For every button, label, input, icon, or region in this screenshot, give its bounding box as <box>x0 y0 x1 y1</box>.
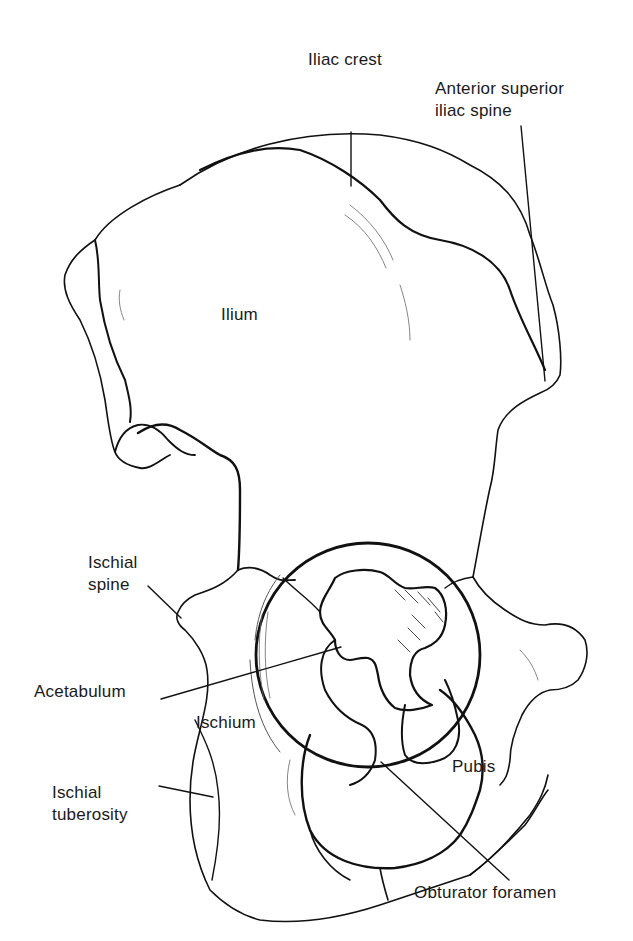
obturator-inner-edge <box>310 830 388 900</box>
posterior-ilium-inner <box>95 240 131 422</box>
label-ilium: Ilium <box>221 304 258 326</box>
leader-obturator-foramen <box>381 762 509 880</box>
leader-ischial-tuberosity <box>159 786 213 797</box>
ischium-outline <box>177 570 548 922</box>
acetabular-fossa <box>320 570 446 710</box>
acetabular-notch <box>402 680 459 763</box>
lunate-surface-inner <box>321 640 376 785</box>
leader-acetabulum <box>161 647 341 699</box>
ischial-tuberosity-outline <box>195 720 220 880</box>
pubis-outline <box>473 577 587 785</box>
label-acetabulum: Acetabulum <box>34 681 126 703</box>
label-obturator-foramen: Obturator foramen <box>414 882 556 904</box>
iliac-crest-inner <box>200 148 545 370</box>
acetabulum-rim <box>256 543 480 767</box>
hip-bone-diagram: Iliac crest Anterior superior iliac spin… <box>0 0 633 941</box>
label-anterior-superior-iliac-spine: Anterior superior iliac spine <box>435 78 564 122</box>
pubic-ramus-lower <box>470 790 548 875</box>
shading-strokes <box>119 205 538 815</box>
greater-sciatic-notch <box>138 424 240 570</box>
obturator-foramen-outline <box>302 690 483 868</box>
label-ischial-tuberosity: Ischial tuberosity <box>52 782 128 826</box>
ilium-outline <box>180 134 561 577</box>
leader-ischial-spine <box>148 586 181 618</box>
label-pubis: Pubis <box>452 756 496 778</box>
label-ischial-spine: Ischial spine <box>88 552 138 596</box>
label-ischium: Ischium <box>196 712 256 734</box>
label-iliac-crest: Iliac crest <box>308 49 382 71</box>
posterior-ilium-outline <box>64 185 180 452</box>
